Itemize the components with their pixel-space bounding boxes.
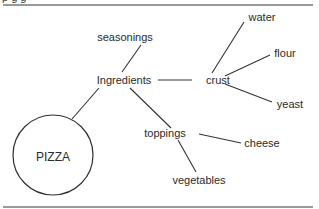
concept-map: p g g PIZZA Ingredients seasonings crust: [0, 0, 319, 209]
node-pizza: PIZZA: [36, 151, 70, 163]
edge-ingredients-seasonings: [122, 45, 141, 72]
edge-crust-flour: [225, 55, 270, 76]
edge-ingredients-toppings: [130, 88, 171, 128]
node-yeast: yeast: [277, 99, 303, 110]
edge-toppings-vegetables: [178, 140, 196, 172]
concept-map-lines: [0, 0, 319, 209]
node-water: water: [249, 12, 276, 23]
node-vegetables: vegetables: [172, 175, 225, 186]
edge-pizza-ingredients: [72, 88, 99, 119]
node-crust: crust: [206, 75, 230, 86]
edge-crust-water: [212, 22, 244, 73]
edge-toppings-cheese: [199, 134, 241, 143]
node-seasonings: seasonings: [97, 32, 153, 43]
node-ingredients: Ingredients: [97, 75, 151, 86]
edge-crust-yeast: [225, 84, 272, 102]
node-flour: flour: [274, 48, 295, 59]
node-cheese: cheese: [244, 138, 279, 149]
node-toppings: toppings: [144, 128, 186, 139]
